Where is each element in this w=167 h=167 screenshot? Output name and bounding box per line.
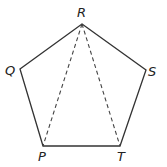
- vertex-label-s: S: [148, 64, 156, 79]
- vertex-label-t: T: [117, 149, 126, 164]
- vertex-label-p: P: [38, 149, 46, 164]
- pentagon-outline: [20, 24, 146, 146]
- pentagon-diagram: R Q S P T: [0, 0, 167, 167]
- diagonal-rt: [82, 24, 120, 146]
- diagonal-rp: [43, 24, 82, 146]
- vertex-label-q: Q: [5, 63, 15, 78]
- vertex-label-r: R: [77, 5, 86, 20]
